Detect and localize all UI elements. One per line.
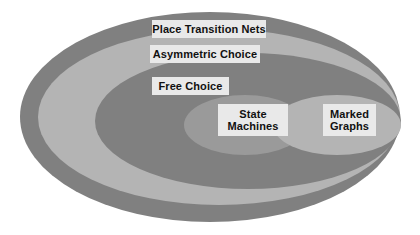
- label-state-machines: State Machines: [218, 104, 288, 136]
- label-marked-graphs: Marked Graphs: [323, 104, 376, 136]
- label-asymmetric-choice: Asymmetric Choice: [150, 45, 260, 63]
- label-place-transition-nets: Place Transition Nets: [152, 20, 266, 38]
- label-free-choice: Free Choice: [152, 77, 229, 95]
- petri-net-hierarchy-diagram: Place Transition Nets Asymmetric Choice …: [0, 0, 420, 235]
